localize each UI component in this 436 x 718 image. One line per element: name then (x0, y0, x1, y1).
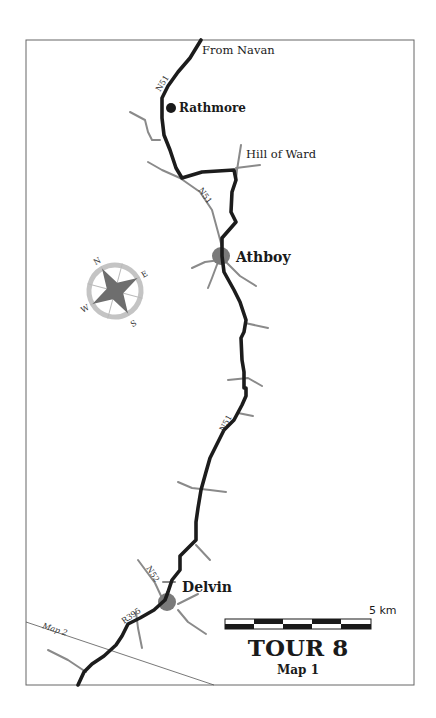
label-rathmore: Rathmore (179, 101, 246, 115)
tour-map: Map 2 N51 N51 N51 N52 (0, 0, 436, 718)
minor-road (236, 165, 260, 168)
road-label-n51-middle: N51 (196, 186, 213, 205)
label-from-navan: From Navan (202, 43, 275, 57)
minor-road (208, 262, 218, 288)
compass-rose: N E S W (62, 239, 168, 347)
compass-n: N (92, 256, 103, 267)
scale-bar: 5 km (225, 604, 397, 629)
rathmore-marker (166, 103, 176, 113)
minor-road (196, 545, 210, 560)
map-subtitle: Map 1 (277, 663, 319, 677)
minor-road (130, 112, 160, 140)
compass-w: W (79, 303, 91, 315)
minor-road (238, 413, 253, 416)
map2-label: Map 2 (40, 621, 68, 638)
compass-s: S (129, 318, 138, 329)
minor-road (178, 594, 198, 604)
label-athboy: Athboy (235, 249, 291, 265)
minor-road (48, 650, 86, 672)
minor-road (245, 323, 268, 328)
label-hill-of-ward: Hill of Ward (246, 147, 317, 161)
compass-e: E (140, 269, 150, 280)
scale-label: 5 km (369, 604, 397, 617)
label-delvin: Delvin (182, 579, 232, 595)
road-label-n52: N52 (144, 564, 161, 583)
minor-roads (48, 112, 268, 672)
minor-road (178, 610, 206, 634)
map-title: TOUR 8 (248, 634, 348, 661)
